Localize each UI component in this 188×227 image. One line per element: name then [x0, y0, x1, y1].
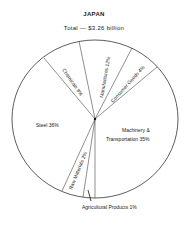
pie-center [94, 118, 96, 120]
pie-chart: Chemicals 8% Manufactures 12% Consumer G… [0, 0, 188, 227]
slice-label-machinery-line1: Machinery & [122, 127, 150, 133]
slice-label-agricultural-products: Agricultural Products 1% [82, 204, 137, 210]
slice-label-steel: Steel 36% [36, 122, 59, 128]
slice-label-machinery-line2: Transportation 35% [106, 136, 150, 142]
